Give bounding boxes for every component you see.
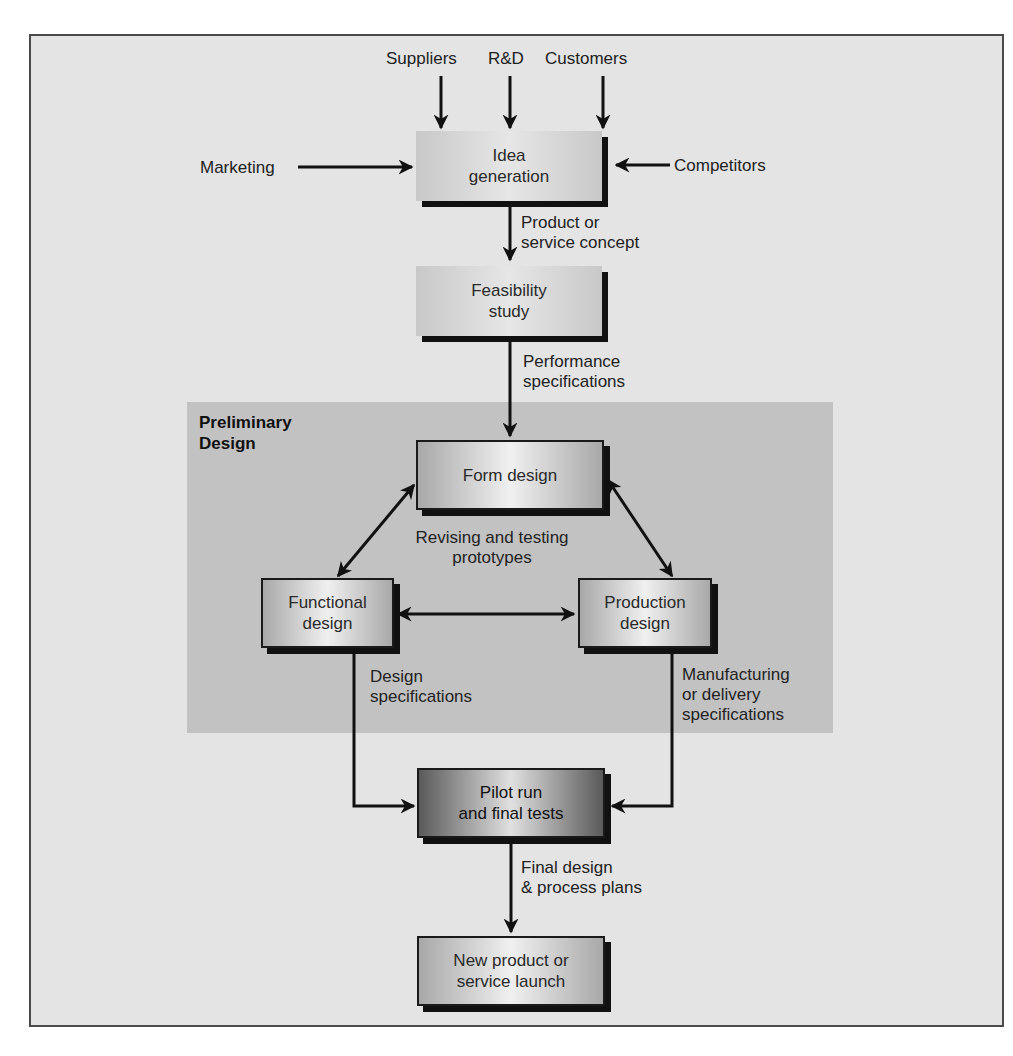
- edge-label-line: specifications: [523, 372, 625, 392]
- node-launch: New product or service launch: [417, 936, 605, 1006]
- edge-label-prototypes: Revising and testing prototypes: [372, 528, 612, 568]
- input-customers: Customers: [545, 49, 627, 69]
- node-feasibility-study: Feasibility study: [416, 266, 602, 336]
- edge-label-final: Final design & process plans: [521, 858, 642, 898]
- edge-label-line: Final design: [521, 858, 642, 878]
- edge-label-performance: Performance specifications: [523, 352, 625, 392]
- node-production-design: Production design: [578, 578, 712, 648]
- node-text: and final tests: [459, 803, 564, 824]
- node-text: Production: [604, 592, 685, 613]
- edge-label-line: specifications: [682, 705, 790, 725]
- edge-label-line: prototypes: [372, 548, 612, 568]
- node-text: Form design: [463, 465, 557, 486]
- node-text: Pilot run: [459, 782, 564, 803]
- node-text: generation: [469, 166, 549, 187]
- arrow-manufacturing-specs: [612, 650, 672, 806]
- edge-label-line: Product or: [521, 213, 639, 233]
- node-text: study: [471, 301, 547, 322]
- edge-label-concept: Product or service concept: [521, 213, 639, 253]
- node-form-design: Form design: [416, 440, 604, 510]
- arrow-form-production: [608, 480, 672, 576]
- edge-label-line: Performance: [523, 352, 625, 372]
- node-text: Feasibility: [471, 280, 547, 301]
- edge-label-line: & process plans: [521, 878, 642, 898]
- edge-label-line: service concept: [521, 233, 639, 253]
- input-rnd: R&D: [488, 49, 524, 69]
- edge-label-line: or delivery: [682, 685, 790, 705]
- node-idea-generation: Idea generation: [416, 131, 602, 201]
- node-pilot-run: Pilot run and final tests: [417, 768, 605, 838]
- node-functional-design: Functional design: [261, 578, 394, 648]
- edge-label-manufacturing-specs: Manufacturing or delivery specifications: [682, 665, 790, 725]
- input-competitors: Competitors: [674, 156, 766, 176]
- edge-label-line: Design: [370, 667, 472, 687]
- node-text: design: [288, 613, 366, 634]
- node-text: Idea: [469, 145, 549, 166]
- edge-label-design-specs: Design specifications: [370, 667, 472, 707]
- edge-label-line: Revising and testing: [372, 528, 612, 548]
- node-text: design: [604, 613, 685, 634]
- node-text: service launch: [453, 971, 568, 992]
- input-marketing: Marketing: [200, 158, 275, 178]
- node-text: New product or: [453, 950, 568, 971]
- edge-label-line: specifications: [370, 687, 472, 707]
- edge-label-line: Manufacturing: [682, 665, 790, 685]
- input-suppliers: Suppliers: [386, 49, 457, 69]
- node-text: Functional: [288, 592, 366, 613]
